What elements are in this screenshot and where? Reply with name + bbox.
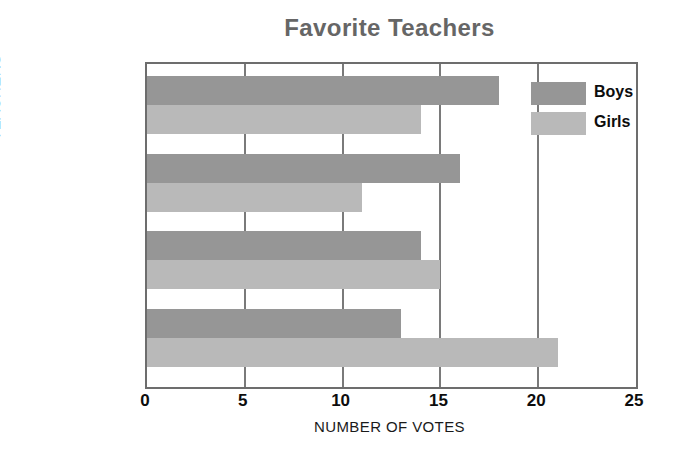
x-tick-10: 10 xyxy=(321,391,361,411)
bar-torres-boys xyxy=(147,309,401,338)
bar-nichols-girls xyxy=(147,105,421,134)
bar-torres-girls xyxy=(147,338,558,367)
bar-tallchief-girls xyxy=(147,260,440,289)
legend-swatch-girls xyxy=(531,112,586,135)
bar-davis-girls xyxy=(147,183,362,212)
x-tick-5: 5 xyxy=(223,391,263,411)
legend-swatch-boys xyxy=(531,82,586,105)
x-tick-0: 0 xyxy=(125,391,165,411)
x-tick-15: 15 xyxy=(418,391,458,411)
bar-davis-boys xyxy=(147,154,460,183)
chart-title: Favorite Teachers xyxy=(145,14,634,42)
chart-legend: BoysGirls xyxy=(531,82,671,138)
x-tick-20: 20 xyxy=(516,391,556,411)
y-axis-title: TEACHERS xyxy=(0,54,3,140)
bar-nichols-boys xyxy=(147,76,499,105)
x-axis-title: NUMBER OF VOTES xyxy=(145,418,634,435)
bar-tallchief-boys xyxy=(147,231,421,260)
legend-label-boys: Boys xyxy=(594,83,633,101)
bar-chart: Favorite Teachers NicholsDavisTallchiefT… xyxy=(0,0,685,454)
x-tick-25: 25 xyxy=(614,391,654,411)
legend-label-girls: Girls xyxy=(594,113,630,131)
